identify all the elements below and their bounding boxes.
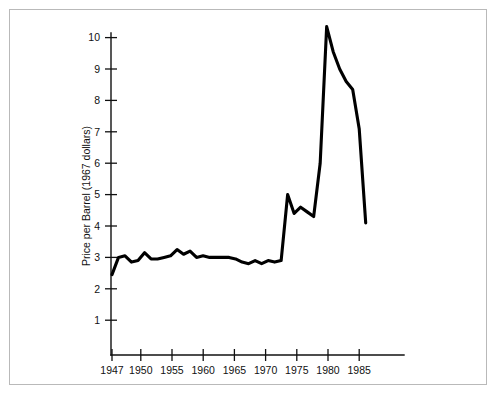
- y-tick-label-10: 10: [88, 31, 100, 43]
- y-axis-title: Price per Barrel (1967 dollars): [80, 126, 92, 266]
- x-tick-label-1955: 1955: [160, 364, 184, 376]
- y-tick-label-8: 8: [94, 94, 100, 106]
- y-tick-label-6: 6: [94, 157, 100, 169]
- y-tick-label-3: 3: [94, 251, 100, 263]
- y-tick-label-2: 2: [94, 283, 100, 295]
- figure-page: 1 2 3 4 5 6 7 8 9 10 1947: [0, 0, 498, 397]
- x-tick-label-1985: 1985: [348, 364, 372, 376]
- y-tick-label-1: 1: [94, 314, 100, 326]
- chart-svg: 1 2 3 4 5 6 7 8 9 10 1947: [0, 0, 498, 397]
- x-tick-label-1970: 1970: [254, 364, 278, 376]
- price-series-line: [112, 27, 366, 275]
- x-tick-label-1960: 1960: [192, 364, 216, 376]
- line-chart: 1 2 3 4 5 6 7 8 9 10 1947: [0, 0, 498, 397]
- y-tick-label-4: 4: [94, 220, 100, 232]
- x-tick-label-1950: 1950: [129, 364, 153, 376]
- x-tick-label-1965: 1965: [223, 364, 247, 376]
- y-tick-label-5: 5: [94, 188, 100, 200]
- y-tick-label-9: 9: [94, 63, 100, 75]
- x-tick-label-1975: 1975: [285, 364, 309, 376]
- x-tick-label-1947: 1947: [100, 364, 124, 376]
- x-tick-label-1980: 1980: [316, 364, 340, 376]
- y-tick-label-7: 7: [94, 126, 100, 138]
